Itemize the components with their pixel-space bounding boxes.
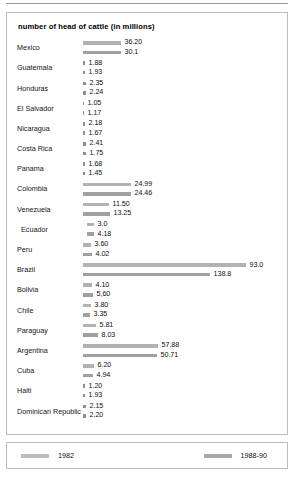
bar-line-1982: 36.20 <box>83 39 142 48</box>
bar-value-label: 2.15 <box>90 403 104 410</box>
bar-1982 <box>83 162 85 166</box>
bar-1982 <box>83 41 121 45</box>
bar-1988-90 <box>83 192 131 196</box>
chart-row: Panama1.681.45 <box>17 159 281 179</box>
chart-row: Costa Rica2.411.75 <box>17 139 281 159</box>
bar-group: 3.604.02 <box>83 240 281 260</box>
bar-line-1982: 11.50 <box>83 200 130 209</box>
legend-label-1988-90: 1988-90 <box>241 451 267 460</box>
bar-1988-90 <box>83 71 85 75</box>
bar-line-1982: 1.05 <box>83 99 101 108</box>
chart-row: Colombia24.9924.46 <box>17 179 281 199</box>
bar-group: 2.152.20 <box>83 401 281 421</box>
chart-legend: 1982 1988-90 <box>6 442 288 469</box>
chart-rows: Mexico36.2030.1Guatemala1.881.93Honduras… <box>17 38 281 422</box>
category-label: Nicaragua <box>17 125 83 133</box>
chart-row: Haiti1.201.93 <box>17 381 281 401</box>
category-label: Peru <box>17 246 83 254</box>
bar-1988-90 <box>83 414 86 418</box>
bar-value-label: 3.35 <box>94 311 108 318</box>
chart-row: Mexico36.2030.1 <box>17 38 281 58</box>
bar-value-label: 1.88 <box>89 60 103 67</box>
bar-value-label: 4.02 <box>96 251 110 258</box>
legend-item-1982: 1982 <box>21 451 74 460</box>
bar-line-1982: 1.68 <box>83 160 102 169</box>
bar-1988-90 <box>83 111 84 115</box>
bar-1988-90 <box>83 293 93 297</box>
bar-line-1988-90: 1.75 <box>83 149 103 158</box>
legend-item-1988-90: 1988-90 <box>204 451 273 460</box>
bar-value-label: 36.20 <box>125 39 143 46</box>
bar-line-1988-90: 3.35 <box>83 310 107 319</box>
bar-1982 <box>83 283 92 287</box>
bar-line-1988-90: 4.94 <box>83 371 110 380</box>
bar-line-1982: 1.20 <box>83 382 102 391</box>
bar-value-label: 24.99 <box>135 181 153 188</box>
category-label: Panama <box>17 165 83 173</box>
bar-1982 <box>83 263 246 267</box>
top-divider <box>6 3 288 4</box>
category-label: Bolivia <box>17 286 83 294</box>
chart-row: Brazil93.0138.8 <box>17 260 281 280</box>
bar-line-1988-90: 1.93 <box>83 391 102 400</box>
bar-1982 <box>83 142 86 146</box>
bar-value-label: 1.68 <box>89 161 103 168</box>
bar-line-1988-90: 2.24 <box>83 88 103 97</box>
bar-line-1982: 6.20 <box>83 362 111 371</box>
bar-1982 <box>83 102 84 106</box>
bar-1988-90 <box>83 354 157 358</box>
bar-value-label: 13.25 <box>114 210 132 217</box>
bar-value-label: 2.24 <box>90 89 104 96</box>
bar-value-label: 57.88 <box>162 342 180 349</box>
chart-row: Nicaragua2.181.67 <box>17 119 281 139</box>
chart-row: Dominican Republic2.152.20 <box>17 401 281 421</box>
bar-1988-90 <box>83 212 110 216</box>
chart-row: Cuba6.204.94 <box>17 361 281 381</box>
bar-1982 <box>83 243 91 247</box>
bar-1982 <box>83 82 86 86</box>
bar-value-label: 4.18 <box>98 231 112 238</box>
category-label: Haiti <box>17 387 83 395</box>
bar-line-1982: 2.18 <box>83 119 102 128</box>
category-label: Mexico <box>17 44 83 52</box>
bar-line-1988-90: 1.45 <box>83 169 102 178</box>
bar-1988-90 <box>83 394 85 398</box>
bar-value-label: 4.10 <box>96 282 110 289</box>
chart-row: Peru3.604.02 <box>17 240 281 260</box>
bar-group: 6.204.94 <box>83 361 281 381</box>
bar-1982 <box>83 61 85 65</box>
chart-row: El Salvador1.051.17 <box>17 99 281 119</box>
bar-line-1982: 2.15 <box>83 402 103 411</box>
bar-1982 <box>83 405 86 409</box>
bar-value-label: 5.81 <box>100 322 114 329</box>
bar-1988-90 <box>83 131 85 135</box>
bar-line-1988-90: 13.25 <box>83 210 131 219</box>
bar-1988-90 <box>83 172 85 176</box>
chart-title: number of head of cattle (in millions) <box>18 22 281 31</box>
bar-1988-90 <box>83 51 121 55</box>
bar-value-label: 138.8 <box>214 271 232 278</box>
category-label: Colombia <box>17 185 83 193</box>
bar-line-1988-90: 1.17 <box>83 109 101 118</box>
legend-label-1982: 1982 <box>58 451 74 460</box>
bar-line-1982: 3.80 <box>83 301 108 310</box>
bar-value-label: 3.0 <box>98 221 108 228</box>
bar-1988-90 <box>83 91 86 95</box>
bar-group: 2.411.75 <box>83 139 281 159</box>
bar-1982 <box>83 344 158 348</box>
bar-line-1982: 3.60 <box>83 240 108 249</box>
chart-row: Ecuador3.04.18 <box>17 220 281 240</box>
bar-1988-90 <box>83 152 86 156</box>
bar-1982 <box>83 384 85 388</box>
bar-1982 <box>87 223 94 227</box>
chart-row: Paraguay5.818.03 <box>17 321 281 341</box>
bar-value-label: 4.94 <box>97 372 111 379</box>
bar-line-1988-90: 4.18 <box>87 230 111 239</box>
bar-1982 <box>83 183 131 187</box>
bar-1988-90 <box>83 273 210 277</box>
bar-line-1988-90: 24.46 <box>83 189 152 198</box>
bar-group: 3.04.18 <box>87 220 281 240</box>
bar-value-label: 11.50 <box>113 201 130 208</box>
bar-line-1988-90: 4.02 <box>83 250 109 259</box>
category-label: Ecuador <box>17 226 87 234</box>
